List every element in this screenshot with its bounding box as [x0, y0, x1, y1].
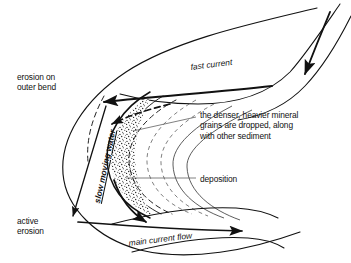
- meander-diagram: erosion on outer bend active erosion fas…: [0, 0, 351, 263]
- leader-mineral-grains: [133, 117, 196, 131]
- label-erosion-outer-bend: erosion on outer bend: [17, 72, 56, 93]
- main-current-flow-arrow: [78, 222, 242, 231]
- label-deposition: deposition: [200, 174, 237, 184]
- fast-current-left-arrow: [104, 86, 272, 102]
- fast-current-arrow: [305, 12, 330, 74]
- label-mineral-grains: the denser, heavier mineral grains are d…: [200, 110, 298, 141]
- diagram-canvas: [0, 0, 351, 263]
- upstream-bank-lines: [120, 4, 351, 120]
- label-active-erosion: active erosion: [17, 216, 44, 237]
